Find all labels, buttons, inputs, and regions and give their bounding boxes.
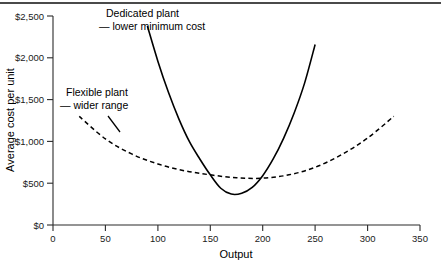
x-tick-label-0: 0 bbox=[50, 233, 55, 244]
x-tick-label-50: 50 bbox=[100, 233, 111, 244]
dedicated-plant-annotation-line1: Dedicated plant bbox=[106, 7, 179, 19]
y-tick-label-1000: $1,000 bbox=[15, 136, 44, 147]
x-axis-tick-labels: 0 50 100 150 200 250 300 350 bbox=[50, 233, 428, 244]
flexible-plant-annotation-line1: Flexible plant bbox=[66, 86, 128, 98]
y-axis-title: Average cost per unit bbox=[4, 68, 16, 172]
dedicated-plant-annotation: Dedicated plant — lower minimum cost bbox=[99, 7, 205, 32]
y-tick-label-500: $500 bbox=[23, 178, 44, 189]
flexible-plant-curve bbox=[79, 116, 394, 178]
x-tick-label-150: 150 bbox=[202, 233, 218, 244]
x-axis-title: Output bbox=[219, 248, 252, 260]
x-tick-label-250: 250 bbox=[307, 233, 323, 244]
x-tick-label-200: 200 bbox=[255, 233, 271, 244]
flexible-plant-leader-line bbox=[108, 116, 120, 132]
cost-curve-chart: $0 $500 $1,000 $1,500 $2,000 $2,500 0 50… bbox=[0, 0, 441, 263]
x-tick-label-300: 300 bbox=[360, 233, 376, 244]
y-axis-ticks bbox=[47, 16, 53, 225]
x-axis-ticks bbox=[53, 225, 420, 231]
dedicated-plant-curve bbox=[147, 26, 315, 194]
y-tick-label-0: $0 bbox=[33, 220, 44, 231]
y-tick-label-1500: $1,500 bbox=[15, 94, 44, 105]
chart-container: $0 $500 $1,000 $1,500 $2,000 $2,500 0 50… bbox=[0, 0, 441, 263]
flexible-plant-annotation-line2: — wider range bbox=[60, 99, 128, 111]
flexible-plant-annotation: Flexible plant — wider range bbox=[60, 86, 128, 132]
x-tick-label-350: 350 bbox=[412, 233, 428, 244]
x-tick-label-100: 100 bbox=[150, 233, 166, 244]
dedicated-plant-annotation-line2: — lower minimum cost bbox=[99, 20, 205, 32]
y-tick-label-2500: $2,500 bbox=[15, 11, 44, 22]
y-axis-tick-labels: $0 $500 $1,000 $1,500 $2,000 $2,500 bbox=[15, 11, 44, 231]
y-tick-label-2000: $2,000 bbox=[15, 52, 44, 63]
